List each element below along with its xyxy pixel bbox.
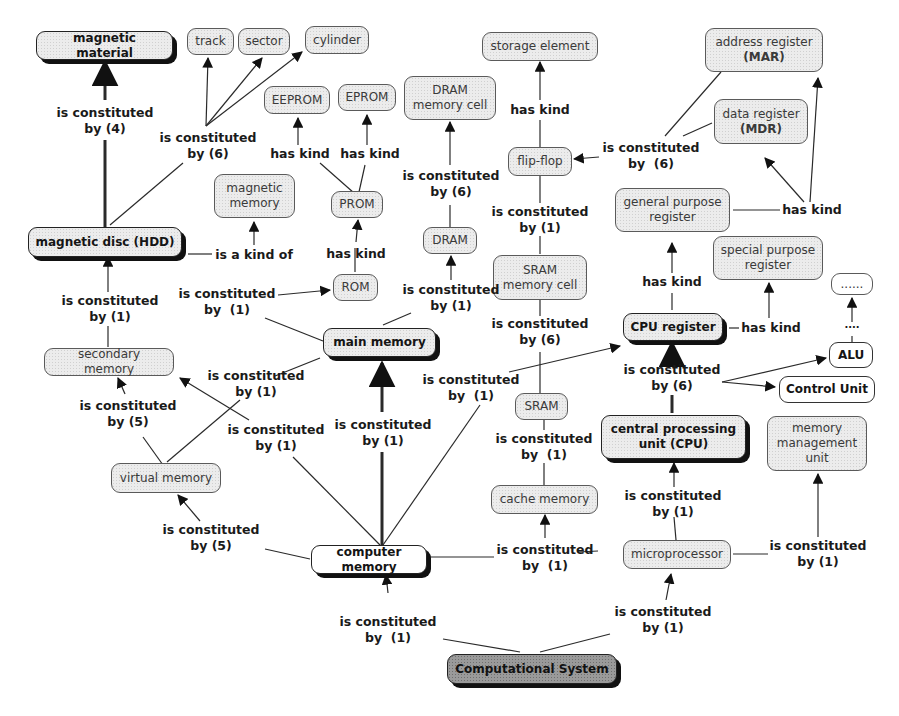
link-label-mainmem-dram: is constituted by (1) xyxy=(398,282,504,314)
link-label-sramcell-flipflop: is constituted by (1) xyxy=(487,204,593,236)
link-label-eeprom: has kind xyxy=(268,146,332,162)
node-alu[interactable]: ALU xyxy=(829,342,873,368)
node-secondary-memory[interactable]: secondary memory xyxy=(44,348,174,376)
node-address-register[interactable]: address register (MAR) xyxy=(705,28,823,72)
link-label-sram-cell: is constituted by (6) xyxy=(487,316,593,348)
link-label-mainmem-rom: is constituted by (1) xyxy=(174,286,280,318)
node-special-purpose-register[interactable]: special purpose register xyxy=(713,236,823,280)
node-sram-memory-cell[interactable]: SRAM memory cell xyxy=(493,255,587,300)
link-label-secondary-hdd: is constituted by (1) xyxy=(57,293,163,325)
link-label-eprom: has kind xyxy=(338,146,402,162)
node-cylinder[interactable]: cylinder xyxy=(305,26,369,54)
link-label-cpu-parts: is constituted by (6) xyxy=(619,362,725,394)
link-label-dram-memory-cell: is constituted by (6) xyxy=(398,168,504,200)
link-label-magnetic-material: is constituted by (4) xyxy=(52,105,158,137)
node-storage-element[interactable]: storage element xyxy=(482,32,598,61)
node-cpu-register[interactable]: CPU register xyxy=(623,313,723,341)
link-label-virtual-main: is constituted by (1) xyxy=(203,368,309,400)
node-magnetic-disc-hdd[interactable]: magnetic disc (HDD) xyxy=(28,227,182,257)
node-magnetic-material[interactable]: magnetic material xyxy=(36,31,173,60)
node-cache-memory[interactable]: cache memory xyxy=(491,485,598,514)
node-eeprom[interactable]: EEPROM xyxy=(264,86,330,114)
link-label-computermem-secondary: is constituted by (1) xyxy=(223,422,329,454)
link-label-system-micro: is constituted by (1) xyxy=(610,604,716,636)
node-dram[interactable]: DRAM xyxy=(423,227,477,254)
link-label-micro-mmu: is constituted by (1) xyxy=(765,538,871,570)
link-label-micro-cpu: is constituted by (1) xyxy=(620,488,726,520)
node-control-unit[interactable]: Control Unit xyxy=(779,376,875,403)
node-prom[interactable]: PROM xyxy=(331,191,383,218)
node-eprom[interactable]: EPROM xyxy=(338,84,396,111)
link-label-alu-more: .... xyxy=(838,320,866,330)
link-label-computermem-cpureg: is constituted by (1) xyxy=(418,372,524,404)
link-label-system-computermem: is constituted by (1) xyxy=(335,614,441,646)
link-label-gpr-kinds: has kind xyxy=(780,202,844,218)
link-label-cpureg-spr: has kind xyxy=(739,320,803,336)
node-data-register[interactable]: data register (MDR) xyxy=(714,99,808,144)
link-label-track-sector-cylinder: is constituted by (6) xyxy=(155,130,261,162)
link-label-computermem-main: is constituted by (1) xyxy=(330,417,436,449)
link-label-registers-flipflop: is constituted by (6) xyxy=(598,140,704,172)
node-computer-memory[interactable]: computer memory xyxy=(311,545,427,574)
node-virtual-memory[interactable]: virtual memory xyxy=(111,463,221,493)
link-label-micro-cache: is constituted by (1) xyxy=(492,542,598,574)
node-computational-system[interactable]: Computational System xyxy=(447,654,617,684)
link-label-storage-element: has kind xyxy=(508,102,572,118)
node-sector[interactable]: sector xyxy=(238,28,290,55)
node-track[interactable]: track xyxy=(187,28,234,55)
node-main-memory[interactable]: main memory xyxy=(323,328,436,357)
concept-map-canvas: magnetic material track sector cylinder … xyxy=(0,0,899,716)
node-flip-flop[interactable]: flip-flop xyxy=(508,147,572,176)
node-more-components[interactable]: ...... xyxy=(831,273,873,295)
node-microprocessor[interactable]: microprocessor xyxy=(623,540,731,569)
link-label-cache-sram: is constituted by (1) xyxy=(491,431,597,463)
node-memory-management-unit[interactable]: memory management unit xyxy=(767,416,867,471)
link-label-is-a-kind-of: is a kind of xyxy=(214,247,294,263)
node-general-purpose-register[interactable]: general purpose register xyxy=(615,188,730,232)
link-label-virtual-secondary: is constituted by (5) xyxy=(75,398,181,430)
node-rom[interactable]: ROM xyxy=(333,274,378,301)
node-magnetic-memory[interactable]: magnetic memory xyxy=(214,174,295,218)
node-central-processing-unit[interactable]: central processing unit (CPU) xyxy=(601,415,746,459)
link-label-rom-prom: has kind xyxy=(324,246,388,262)
link-label-cpureg-gpr: has kind xyxy=(640,274,704,290)
link-label-computermem-virtual: is constituted by (5) xyxy=(158,522,264,554)
node-dram-memory-cell[interactable]: DRAM memory cell xyxy=(404,76,496,120)
